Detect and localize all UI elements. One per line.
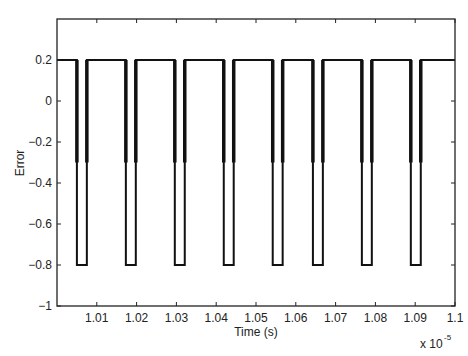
x-tick-label: 1.07 xyxy=(324,311,348,325)
x-tick-label: 1.04 xyxy=(205,311,229,325)
x-tick-label: 1.03 xyxy=(165,311,189,325)
x-axis-multiplier: x 10 -5 xyxy=(420,333,452,351)
y-tick-label: −1 xyxy=(38,299,52,313)
x-tick-label: 1.1 xyxy=(447,311,464,325)
y-tick-label: 0.2 xyxy=(35,53,52,67)
y-axis-label: Error xyxy=(13,150,27,177)
x-tick-label: 1.06 xyxy=(284,311,308,325)
x-tick-label: 1.09 xyxy=(404,311,428,325)
x-tick-label: 1.05 xyxy=(244,311,268,325)
y-tick-label: −0.2 xyxy=(28,135,52,149)
x-tick-label: 1.02 xyxy=(125,311,149,325)
x-tick-label: 1.01 xyxy=(85,311,109,325)
y-tick-label: 0 xyxy=(45,94,52,108)
svg-text:x 10: x 10 xyxy=(420,337,443,351)
y-tick-label: −0.6 xyxy=(28,217,52,231)
y-axis-ticks: 0.20−0.2−0.4−0.6−0.8−1 xyxy=(28,53,455,313)
y-tick-label: −0.4 xyxy=(28,176,52,190)
error-waveform xyxy=(57,60,455,265)
x-tick-label: 1.08 xyxy=(364,311,388,325)
error-vs-time-chart: 0.20−0.2−0.4−0.6−0.8−1 1.011.021.031.041… xyxy=(0,0,468,356)
svg-text:-5: -5 xyxy=(444,333,452,342)
plot-area xyxy=(57,60,455,265)
y-tick-label: −0.8 xyxy=(28,258,52,272)
axes-frame xyxy=(57,19,455,306)
x-axis-label: Time (s) xyxy=(234,325,278,339)
